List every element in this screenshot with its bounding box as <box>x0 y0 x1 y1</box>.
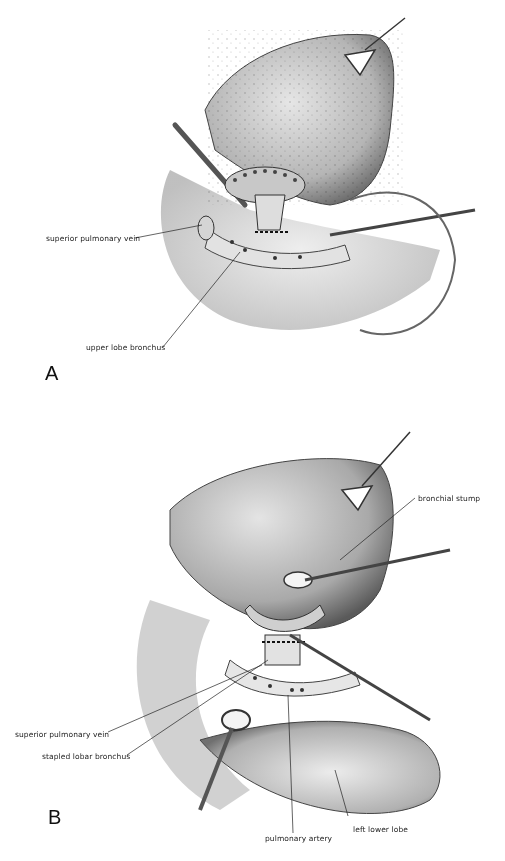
label-upper-lobe-bronchus: upper lobe bronchus <box>86 343 165 352</box>
label-bronchial-stump: bronchial stump <box>418 494 480 503</box>
retractor-ring-icon <box>222 710 250 730</box>
forceps-instrument <box>330 210 475 235</box>
left-lower-lobe-shape <box>200 721 440 813</box>
superior-pulmonary-vein-shape <box>198 216 214 240</box>
label-stapled-lobar-bronchus: stapled lobar bronchus <box>42 752 130 761</box>
panel-letter-b: B <box>48 806 61 829</box>
panel-a-illustration <box>0 0 505 400</box>
panel-a: superior pulmonary vein upper lobe bronc… <box>0 0 505 400</box>
panel-b-illustration <box>0 410 505 861</box>
label-pulmonary-artery: pulmonary artery <box>265 834 332 843</box>
label-superior-pulmonary-vein-a: superior pulmonary vein <box>46 234 140 243</box>
forceps-instrument-b <box>290 635 430 720</box>
chest-wall-tissue <box>137 600 250 810</box>
upper-lobe-bronchus-shape <box>255 195 285 230</box>
panel-b: bronchial stump superior pulmonary vein … <box>0 410 505 861</box>
label-left-lower-lobe: left lower lobe <box>353 825 408 834</box>
label-superior-pulmonary-vein-b: superior pulmonary vein <box>15 730 109 739</box>
panel-letter-a: A <box>45 362 58 385</box>
